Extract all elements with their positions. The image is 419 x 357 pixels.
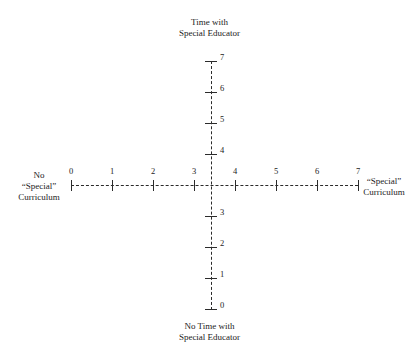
horizontal-tick-mark [358,180,359,191]
vertical-axis-bottom-label: No Time with Special Educator [0,321,419,343]
vertical-axis-line [211,61,212,310]
horizontal-tick-mark [71,180,72,191]
vertical-tick-mark [205,154,217,155]
horizontal-tick-label: 5 [266,166,286,176]
horizontal-axis-left-label-line3: Curriculum [8,192,70,203]
vertical-tick-label: 5 [220,114,234,124]
vertical-axis-top-label-line2: Special Educator [0,28,419,39]
horizontal-tick-label: 7 [348,166,368,176]
vertical-tick-label: 3 [220,207,234,217]
vertical-tick-label: 4 [220,145,234,155]
vertical-tick-label: 1 [220,269,234,279]
horizontal-tick-mark [153,180,154,191]
vertical-tick-mark [205,92,217,93]
vertical-axis-bottom-label-line1: No Time with [0,321,419,332]
horizontal-tick-mark [112,180,113,191]
vertical-tick-mark [205,309,217,310]
vertical-tick-label: 0 [220,300,234,310]
horizontal-tick-label: 2 [143,166,163,176]
vertical-tick-mark [205,61,217,62]
horizontal-axis-right-label: “Special” Curriculum [352,176,416,198]
vertical-axis-bottom-label-line2: Special Educator [0,332,419,343]
horizontal-axis-line [71,185,358,186]
vertical-tick-label: 7 [220,52,234,62]
horizontal-tick-mark [276,180,277,191]
horizontal-tick-mark [194,180,195,191]
vertical-tick-mark [205,123,217,124]
horizontal-axis-right-label-line1: “Special” [352,176,416,187]
vertical-tick-mark [205,247,217,248]
vertical-tick-mark [205,216,217,217]
horizontal-tick-mark [317,180,318,191]
horizontal-tick-label: 0 [61,166,81,176]
horizontal-tick-label: 1 [102,166,122,176]
vertical-tick-label: 6 [220,83,234,93]
horizontal-axis-right-label-line2: Curriculum [352,187,416,198]
horizontal-tick-label: 6 [307,166,327,176]
horizontal-tick-mark [235,180,236,191]
diagram-canvas: Time with Special Educator No Time with … [0,0,419,357]
vertical-axis-top-label-line1: Time with [0,17,419,28]
vertical-axis-top-label: Time with Special Educator [0,17,419,39]
horizontal-tick-label: 4 [225,166,245,176]
vertical-tick-mark [205,278,217,279]
horizontal-tick-label: 3 [184,166,204,176]
horizontal-axis-left-label-line2: “Special” [8,181,70,192]
vertical-tick-label: 2 [220,238,234,248]
